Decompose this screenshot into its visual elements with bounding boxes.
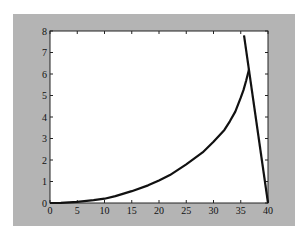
x-tick-label: 20 xyxy=(154,205,164,216)
y-tick-label: 3 xyxy=(42,133,47,144)
line-chart: 0510152025303540 012345678 xyxy=(0,0,305,237)
y-tick-label: 8 xyxy=(42,26,47,37)
x-tick-label: 40 xyxy=(263,205,273,216)
x-tick-label: 15 xyxy=(127,205,137,216)
x-tick-label: 35 xyxy=(236,205,246,216)
x-tick-label: 10 xyxy=(100,205,110,216)
y-tick-label: 4 xyxy=(42,112,47,123)
x-tick-label: 25 xyxy=(181,205,191,216)
x-tick-label: 30 xyxy=(209,205,219,216)
y-tick-label: 1 xyxy=(42,176,47,187)
x-tick-label: 5 xyxy=(75,205,80,216)
y-tick-label: 5 xyxy=(42,90,47,101)
y-tick-label: 2 xyxy=(42,155,47,166)
y-tick-label: 6 xyxy=(42,69,47,80)
axes-box xyxy=(50,31,268,203)
x-tick-label: 0 xyxy=(48,205,53,216)
y-tick-label: 7 xyxy=(42,47,47,58)
y-tick-label: 0 xyxy=(42,198,47,209)
